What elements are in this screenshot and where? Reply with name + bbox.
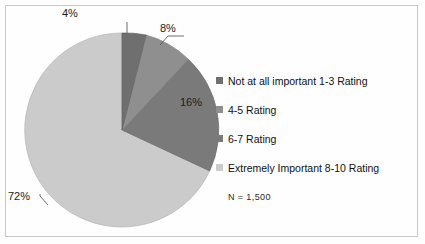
sample-size-annotation: N = 1,500 — [228, 192, 271, 202]
data-label-8-percent: 8% — [160, 22, 176, 34]
legend-item-label: Extremely Important 8-10 Rating — [228, 162, 379, 174]
legend-item-label: Not at all important 1-3 Rating — [228, 75, 367, 87]
data-label-4-percent: 4% — [62, 7, 78, 19]
leader-line-72-percent — [40, 194, 48, 205]
legend-item-not-at-all-important-1-3-rating[interactable]: Not at all important 1-3 Rating — [216, 66, 416, 95]
legend-swatch-icon — [216, 135, 223, 142]
legend-item-4-5-rating[interactable]: 4-5 Rating — [216, 95, 416, 124]
legend-swatch-icon — [216, 77, 223, 84]
data-label-16-percent: 16% — [180, 96, 202, 108]
legend-item-label: 6-7 Rating — [228, 133, 276, 145]
pie-chart-figure: 4% 8% 16% 72% Not at all important 1-3 R… — [0, 0, 425, 244]
legend-item-label: 4-5 Rating — [228, 104, 276, 116]
legend-swatch-icon — [216, 106, 223, 113]
legend-swatch-icon — [216, 164, 223, 171]
legend-item-extremely-important-8-10-rating[interactable]: Extremely Important 8-10 Rating — [216, 153, 416, 182]
data-label-72-percent: 72% — [8, 190, 30, 202]
legend-item-6-7-rating[interactable]: 6-7 Rating — [216, 124, 416, 153]
chart-legend: Not at all important 1-3 Rating 4-5 Rati… — [216, 66, 416, 182]
